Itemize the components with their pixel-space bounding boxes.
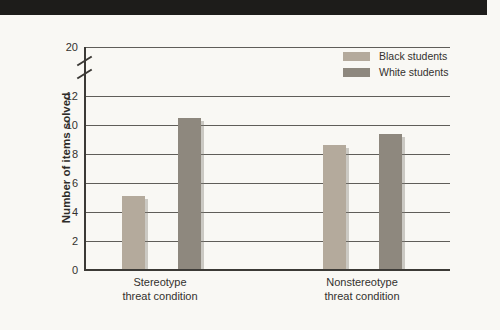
scanned-figure-page: Number of items solved Black students Wh… [0,0,500,330]
x-category-label-nonstereotype: Nonstereotype threat condition [282,276,442,303]
bar-shadow [346,148,349,271]
x-axis-line [84,269,450,271]
x-category-label-stereotype: Stereotype threat condition [80,276,240,303]
y-tick-label-20: 20 [52,41,78,53]
x-category-line1: Nonstereotype [326,276,398,288]
bar-white-students-group2 [379,134,402,270]
legend-item: White students [343,66,448,78]
gridline-y-20 [85,47,450,48]
y-tick-label-8: 8 [52,148,78,160]
x-category-line2: threat condition [324,290,399,302]
legend-label-white-students: White students [379,66,448,78]
page-header-banner [0,0,487,15]
bar-white-students-group1 [178,118,201,270]
legend-swatch-white-students [343,68,370,77]
x-category-line1: Stereotype [133,276,186,288]
y-tick-label-0: 0 [52,264,78,276]
legend: Black students White students [343,50,448,82]
bar-shadow [402,137,405,271]
legend-item: Black students [343,50,448,62]
x-category-line2: threat condition [122,290,197,302]
bar-black-students-group2 [323,145,346,270]
gridline-y-10 [85,125,450,126]
legend-label-black-students: Black students [379,50,447,62]
legend-swatch-black-students [343,52,370,61]
bar-shadow [145,199,148,271]
y-axis-line [84,47,86,271]
bar-black-students-group1 [122,196,145,270]
y-tick-label-2: 2 [52,235,78,247]
gridline-y-12 [85,96,450,97]
y-tick-label-12: 12 [52,90,78,102]
y-tick-label-10: 10 [52,119,78,131]
y-tick-label-4: 4 [52,206,78,218]
bar-shadow [201,121,204,271]
y-tick-label-6: 6 [52,177,78,189]
